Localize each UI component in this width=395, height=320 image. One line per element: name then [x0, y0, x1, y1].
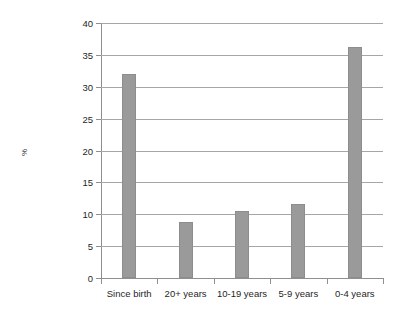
x-axis-tick-labels: Since birth20+ years10-19 years5-9 years…: [0, 0, 395, 320]
bar-chart: % 0510152025303540 Since birth20+ years1…: [0, 0, 395, 320]
x-axis-tick-label: 20+ years: [165, 288, 207, 299]
x-axis-tick-label: Since birth: [107, 288, 152, 299]
x-axis-tick-label: 5-9 years: [279, 288, 319, 299]
x-axis-tick-label: 0-4 years: [335, 288, 375, 299]
x-axis-tick-label: 10-19 years: [217, 288, 267, 299]
